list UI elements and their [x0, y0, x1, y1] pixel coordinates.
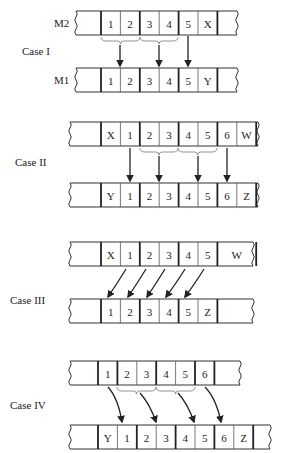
grouping-brace	[101, 37, 140, 44]
cell-value: 2	[127, 75, 133, 87]
cell-value: 1	[124, 432, 130, 444]
cell-value: 3	[147, 18, 153, 30]
cell-value: 6	[224, 190, 230, 202]
cell-value: 2	[127, 306, 133, 318]
cell-value: Z	[240, 432, 247, 444]
grouping-brace	[156, 387, 195, 394]
cell-value: W	[241, 129, 252, 141]
memory-strip-bottom: 12345Z	[69, 299, 255, 323]
cell-value: 3	[163, 432, 169, 444]
cell-value: 1	[108, 306, 114, 318]
cell-value: 5	[205, 190, 211, 202]
cell-value: 4	[186, 249, 192, 261]
grouping-brace	[140, 37, 178, 44]
cell-value: 4	[186, 190, 192, 202]
case-label: Case IV	[10, 399, 46, 411]
memory-shift-diagram: Case I12345XM212345YM1Case IIX123456WY12…	[0, 0, 285, 453]
cell-value: 2	[127, 18, 133, 30]
cell-value: X	[204, 18, 212, 30]
case-label: Case II	[15, 156, 47, 168]
memory-strip-top: X123456W	[69, 122, 260, 146]
grouping-brace	[178, 148, 217, 155]
cell-value: 2	[147, 190, 153, 202]
cell-value: 5	[186, 75, 192, 87]
case-label: Case I	[22, 45, 50, 57]
cell-value: 3	[147, 75, 153, 87]
cell-value: 5	[186, 18, 192, 30]
cell-value: 3	[147, 306, 153, 318]
cell-value: 1	[108, 18, 114, 30]
arrow-icon	[140, 393, 156, 422]
arrow-icon	[128, 269, 146, 297]
cell-value: 1	[108, 75, 114, 87]
memory-strip-m2: 12345XM2	[54, 11, 238, 35]
cell-value: 4	[163, 368, 169, 380]
cell-value: X	[107, 249, 115, 261]
cell-value: 1	[127, 129, 133, 141]
memory-strip-top: X12345W	[69, 242, 256, 266]
memory-strip-bottom: Y123456Z	[69, 425, 272, 449]
case-3: Case IIIX12345W12345Z	[10, 242, 256, 323]
cell-value: 5	[202, 432, 208, 444]
memory-label: M2	[54, 17, 69, 29]
cell-value: 2	[144, 432, 150, 444]
cell-value: 5	[186, 306, 192, 318]
memory-label: M1	[54, 74, 69, 86]
cell-value: W	[232, 249, 243, 261]
arrow-icon	[147, 269, 165, 297]
cell-value: Z	[204, 306, 211, 318]
cell-value: 2	[147, 249, 153, 261]
case-label: Case III	[10, 294, 45, 306]
cell-value: 1	[127, 190, 133, 202]
arrow-icon	[185, 269, 204, 297]
memory-strip-m1: 12345YM1	[54, 68, 238, 92]
memory-strip-top: 123456	[69, 361, 242, 385]
case-4: Case IV123456Y123456Z	[10, 361, 271, 449]
cell-value: 3	[144, 368, 150, 380]
cell-value: Y	[107, 190, 115, 202]
cell-value: X	[107, 129, 115, 141]
case-2: Case IIX123456WY123456Z	[15, 122, 259, 207]
arrow-icon	[205, 387, 221, 422]
memory-strip-bottom: Y123456Z	[69, 183, 260, 207]
cell-value: 2	[147, 129, 153, 141]
cell-value: 6	[224, 129, 230, 141]
cell-value: 3	[166, 129, 172, 141]
cell-value: 4	[166, 75, 172, 87]
grouping-brace	[140, 148, 178, 155]
cell-value: 5	[183, 368, 189, 380]
cell-value: 1	[105, 368, 111, 380]
cell-value: 6	[221, 432, 227, 444]
cell-value: Y	[104, 432, 112, 444]
arrow-icon	[108, 387, 122, 422]
cell-value: 1	[127, 249, 133, 261]
cell-value: 4	[183, 432, 189, 444]
cell-value: Y	[204, 75, 212, 87]
grouping-brace	[117, 387, 156, 394]
cell-value: 5	[205, 249, 211, 261]
cell-value: 4	[186, 129, 192, 141]
cell-value: 4	[166, 18, 172, 30]
cell-value: 3	[166, 190, 172, 202]
cell-value: Z	[243, 190, 250, 202]
cell-value: 5	[205, 129, 211, 141]
arrow-icon	[108, 269, 126, 297]
case-1: Case I12345XM212345YM1	[22, 11, 238, 92]
cell-value: 2	[124, 368, 130, 380]
cell-value: 4	[166, 306, 172, 318]
arrow-icon	[178, 393, 194, 422]
cell-value: 3	[166, 249, 172, 261]
cell-value: 6	[202, 368, 208, 380]
arrow-icon	[166, 269, 185, 297]
